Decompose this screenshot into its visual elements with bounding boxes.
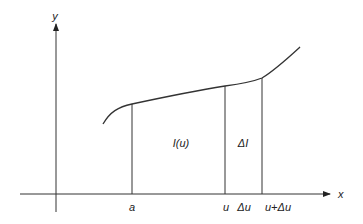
tick-label-u: u: [223, 201, 229, 213]
tick-label-u-plus-delta-u: u+Δu: [265, 201, 291, 213]
integral-diagram: y x a u Δu u+Δu I(u) ΔI: [0, 0, 363, 224]
function-curve: [103, 47, 300, 124]
y-axis-label: y: [51, 10, 59, 22]
region-label-integral: I(u): [173, 137, 190, 149]
tick-label-delta-u: Δu: [236, 201, 251, 213]
x-axis-label: x: [337, 188, 344, 200]
tick-label-a: a: [129, 201, 135, 213]
region-label-delta-integral: ΔI: [237, 137, 248, 149]
